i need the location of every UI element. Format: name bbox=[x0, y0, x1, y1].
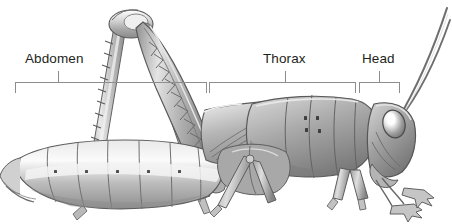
label-abdomen: Abdomen bbox=[25, 52, 84, 66]
label-head: Head bbox=[362, 52, 395, 66]
grasshopper-illustration bbox=[0, 0, 452, 224]
abdomen bbox=[0, 140, 223, 209]
label-thorax: Thorax bbox=[263, 52, 306, 66]
grasshopper-anatomy-figure: Abdomen Thorax Head bbox=[0, 0, 452, 224]
tarsus bbox=[390, 188, 434, 222]
antenna bbox=[397, 8, 450, 121]
